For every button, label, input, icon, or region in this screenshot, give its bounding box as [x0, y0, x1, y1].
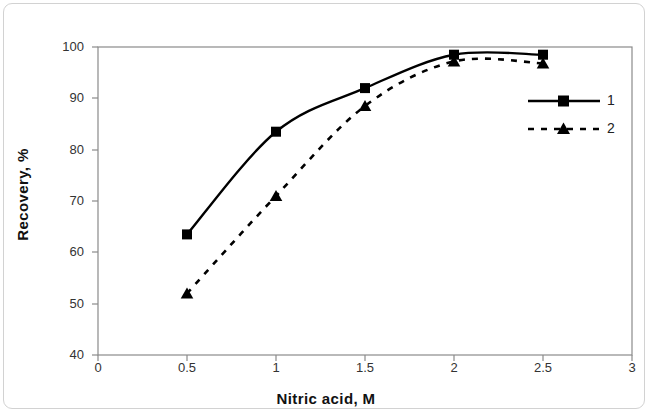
x-tick-label-0: 0	[78, 360, 118, 375]
x-tick-label-1.5: 1.5	[345, 360, 385, 375]
data-point-series-1	[538, 50, 548, 60]
x-tick-label-3: 3	[612, 360, 652, 375]
x-tick-label-0.5: 0.5	[167, 360, 207, 375]
legend-marker-square-icon	[558, 96, 569, 107]
data-point-series-1	[271, 127, 281, 137]
data-point-series-1	[182, 229, 192, 239]
plot-frame	[98, 47, 632, 355]
x-tick-label-2.5: 2.5	[523, 360, 563, 375]
legend-label-1: 1	[607, 92, 615, 108]
y-tick-label-80: 80	[44, 142, 84, 157]
data-point-series-1	[449, 50, 459, 60]
y-tick-label-100: 100	[44, 39, 84, 54]
y-axis-title: Recovery, %	[14, 135, 31, 255]
y-tick-label-60: 60	[44, 244, 84, 259]
y-tick-label-50: 50	[44, 296, 84, 311]
y-tick-label-70: 70	[44, 193, 84, 208]
data-point-series-1	[360, 83, 370, 93]
y-axis-ticks	[92, 47, 98, 355]
x-axis-title: Nitric acid, M	[0, 390, 652, 407]
x-tick-label-1: 1	[256, 360, 296, 375]
x-tick-label-2: 2	[434, 360, 474, 375]
plot-area	[0, 0, 652, 414]
legend-label-2: 2	[607, 120, 615, 136]
y-tick-label-90: 90	[44, 90, 84, 105]
recovery-vs-nitric-acid-chart: 100 90 80 70 60 50 40 0 0.5 1 1.5 2 2.5 …	[0, 0, 652, 414]
